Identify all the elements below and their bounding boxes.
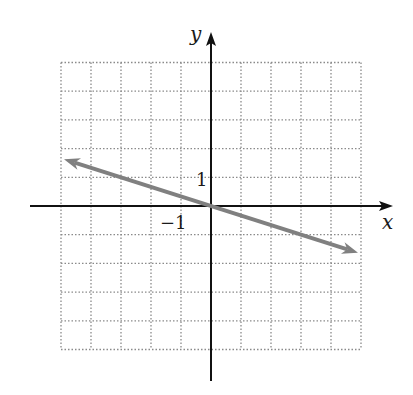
- tick-label-y-1: 1: [196, 169, 207, 190]
- tick-label-x-minus-1: −1: [160, 212, 187, 233]
- x-axis-label: x: [382, 210, 393, 234]
- y-axis-label: y: [189, 22, 202, 46]
- coordinate-plane: x y 1 −1: [0, 0, 413, 395]
